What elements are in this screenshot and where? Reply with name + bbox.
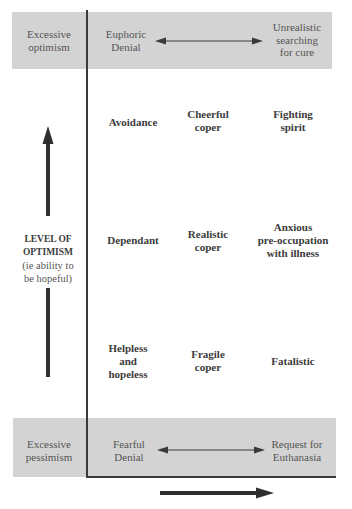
right-arrow-icon	[0, 0, 352, 509]
